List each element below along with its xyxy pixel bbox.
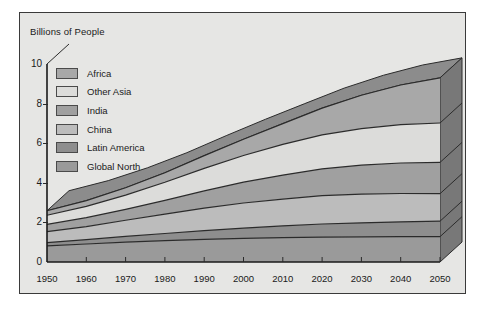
legend-item: India [56, 101, 145, 120]
legend-item: Latin America [56, 138, 145, 157]
legend-swatch [56, 142, 78, 153]
y-tick-mark [43, 222, 48, 223]
x-tick-label: 2000 [227, 273, 261, 284]
x-tick-label: 1960 [69, 273, 103, 284]
legend-label: Latin America [87, 142, 145, 153]
legend-label: India [87, 105, 108, 116]
y-tick-label: 2 [22, 216, 42, 227]
y-tick-mark [43, 104, 48, 105]
legend-item: Other Asia [56, 83, 145, 102]
legend-swatch [56, 105, 78, 116]
legend-swatch [56, 161, 78, 172]
x-tick-label: 2010 [266, 273, 300, 284]
y-tick-label: 8 [22, 98, 42, 109]
legend-label: Global North [87, 161, 140, 172]
legend-item: Africa [56, 64, 145, 83]
legend-label: Africa [87, 68, 111, 79]
page-edge-strip [0, 0, 6, 316]
chart-legend: AfricaOther AsiaIndiaChinaLatin AmericaG… [56, 64, 145, 176]
x-tick-label: 2040 [384, 273, 418, 284]
legend-label: China [87, 124, 112, 135]
legend-swatch [56, 86, 78, 97]
chart-figure: Billions of People 1086420 1950196019701… [0, 0, 485, 316]
x-tick-label: 2030 [344, 273, 378, 284]
y-tick-label: 6 [22, 137, 42, 148]
y-axis-title: Billions of People [30, 26, 105, 37]
y-tick-label: 10 [22, 58, 42, 69]
legend-swatch [56, 124, 78, 135]
legend-item: Global North [56, 157, 145, 176]
y-tick-mark [43, 143, 48, 144]
y-tick-label: 4 [22, 177, 42, 188]
legend-label: Other Asia [87, 86, 131, 97]
x-tick-label: 2020 [305, 273, 339, 284]
top-face-left-edge [47, 44, 69, 64]
x-tick-label: 1980 [148, 273, 182, 284]
x-tick-label: 1990 [187, 273, 221, 284]
x-tick-label: 1950 [30, 273, 64, 284]
y-tick-label: 0 [22, 256, 42, 267]
x-tick-label: 1970 [109, 273, 143, 284]
x-tick-label: 2050 [423, 273, 457, 284]
y-tick-mark [43, 183, 48, 184]
legend-item: China [56, 120, 145, 139]
legend-swatch [56, 68, 78, 79]
